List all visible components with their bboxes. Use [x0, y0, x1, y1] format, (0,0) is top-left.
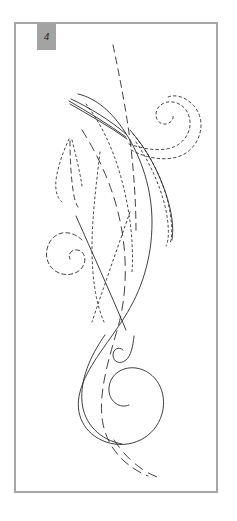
figure-frame [14, 22, 218, 493]
figure-panel: 4 [0, 0, 237, 521]
panel-label: 4 [37, 23, 56, 50]
